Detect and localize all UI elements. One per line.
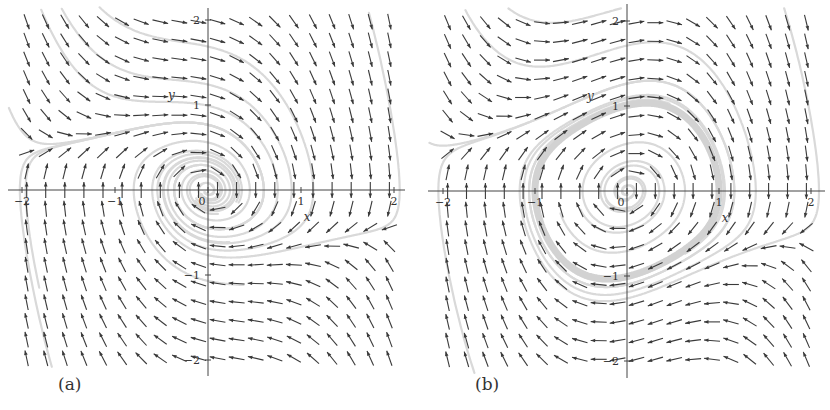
arrowhead — [239, 78, 244, 82]
arrowhead — [191, 337, 196, 340]
arrowhead — [667, 340, 672, 344]
arrowhead — [100, 257, 103, 262]
arrowhead — [620, 113, 625, 116]
arrowhead — [293, 155, 296, 160]
arrowhead — [768, 119, 772, 124]
arrowhead — [62, 276, 65, 281]
arrowhead — [610, 339, 615, 343]
arrowhead — [672, 195, 676, 200]
arrowhead — [591, 263, 596, 267]
arrowhead — [786, 157, 790, 162]
arrowhead — [366, 295, 370, 300]
x-axis-label: x — [304, 210, 311, 224]
panel-caption-a: (a) — [58, 374, 81, 394]
arrowhead — [620, 150, 625, 153]
arrowhead — [26, 24, 29, 29]
arrowhead — [332, 81, 335, 86]
arrowhead — [350, 99, 353, 104]
arrowhead — [65, 42, 69, 47]
arrowhead — [526, 59, 531, 62]
arrowhead — [483, 277, 487, 282]
arrowhead — [783, 334, 787, 339]
arrowhead — [743, 300, 748, 304]
arrowhead — [601, 131, 606, 135]
arrowhead — [674, 175, 678, 180]
arrowhead — [563, 113, 568, 117]
arrowhead — [502, 239, 506, 244]
arrowhead — [601, 57, 606, 60]
arrowhead — [369, 137, 373, 142]
arrowhead — [519, 296, 523, 301]
arrowhead — [220, 21, 225, 25]
arrowhead — [294, 99, 298, 104]
arrowhead — [483, 296, 486, 301]
arrowhead — [465, 183, 469, 188]
arrowhead — [343, 244, 348, 248]
arrowhead — [690, 212, 693, 217]
arrowhead — [172, 355, 177, 359]
arrowhead — [220, 115, 225, 118]
arrowhead — [731, 43, 735, 48]
arrowhead — [202, 95, 207, 99]
arrowhead — [501, 277, 504, 282]
arrowhead — [120, 182, 124, 187]
arrowhead — [306, 280, 311, 284]
arrowhead — [519, 353, 523, 358]
arrowhead — [26, 43, 29, 48]
arrowhead — [81, 257, 84, 262]
arrowhead — [601, 95, 606, 98]
arrowhead — [503, 183, 507, 188]
arrowhead — [610, 321, 615, 325]
y-tick-label: 2 — [612, 15, 619, 28]
phase-portrait-b: −2−1012−2−112xy (b) — [415, 0, 830, 410]
y-axis-label: y — [167, 88, 175, 102]
arrowhead — [388, 118, 392, 123]
arrowhead — [164, 113, 169, 117]
x-tick-label: 1 — [716, 196, 723, 209]
arrowhead — [99, 333, 103, 338]
arrowhead — [750, 44, 754, 49]
x-tick-label: −2 — [14, 195, 30, 208]
arrowhead — [64, 164, 68, 169]
arrowhead — [202, 58, 207, 62]
arrowhead — [43, 220, 47, 225]
y-tick-label: −2 — [603, 355, 619, 368]
arrowhead — [803, 315, 807, 320]
arrowhead — [367, 314, 371, 319]
arrowhead — [768, 63, 771, 68]
x-tick-label: 0 — [199, 195, 206, 208]
x-tick-label: 2 — [391, 195, 398, 208]
arrowhead — [629, 265, 634, 268]
arrowhead — [464, 221, 468, 226]
arrowhead — [385, 258, 389, 263]
arrowhead — [483, 333, 486, 338]
arrowhead — [483, 352, 486, 357]
arrowhead — [81, 276, 84, 281]
arrowhead — [81, 295, 84, 300]
arrowhead — [26, 62, 29, 67]
arrowhead — [62, 220, 66, 225]
arrowhead — [768, 100, 772, 105]
arrowhead — [526, 41, 531, 44]
arrowhead — [173, 261, 178, 265]
arrowhead — [610, 302, 615, 306]
arrowhead — [501, 258, 504, 263]
arrowhead — [65, 24, 69, 29]
arrowhead — [81, 332, 84, 337]
arrowhead — [351, 43, 354, 48]
arrowhead — [667, 303, 672, 306]
arrowhead — [313, 80, 317, 85]
arrowhead — [464, 333, 468, 338]
arrowhead — [762, 280, 767, 284]
arrowhead — [783, 315, 787, 320]
arrowhead — [332, 99, 335, 104]
arrowhead — [558, 202, 561, 207]
arrowhead — [691, 195, 695, 200]
arrowhead — [448, 100, 452, 105]
arrowhead — [369, 62, 372, 67]
x-axis-label: x — [722, 211, 729, 225]
arrowhead — [591, 320, 596, 324]
arrowhead — [332, 62, 335, 67]
arrowhead — [286, 299, 291, 302]
arrowhead — [388, 137, 392, 142]
